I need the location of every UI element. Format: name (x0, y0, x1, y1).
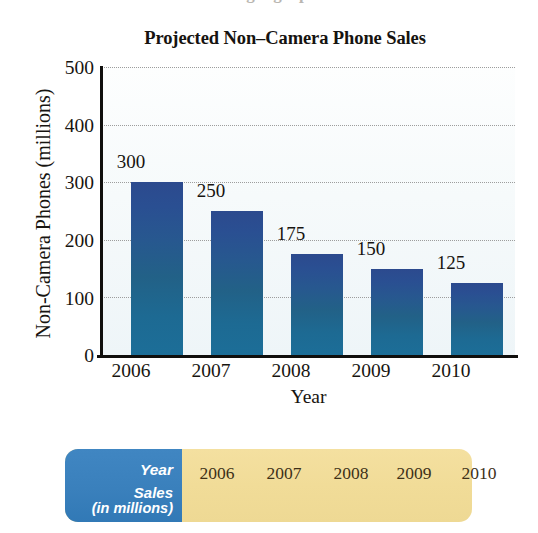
table-cell-sales-2007[interactable] (255, 493, 313, 517)
x-tick-2007: 2007 (166, 360, 256, 382)
bars-layer (102, 67, 515, 355)
table-cell-sales-2008[interactable] (322, 493, 380, 517)
table-cell-sales-2009[interactable] (385, 493, 443, 517)
table-cell-year-2006: 2006 (188, 463, 246, 484)
bar-value-2006: 300 (91, 151, 171, 173)
table-row-label-sales-line1: Sales (134, 484, 173, 501)
table-cell-sales-2006[interactable] (188, 493, 246, 517)
bar-value-2010: 125 (411, 252, 491, 274)
y-tick-400: 400 (32, 115, 94, 137)
bar-value-2008: 175 (251, 223, 331, 245)
y-tick-100: 100 (32, 288, 94, 310)
table-cell-year-2008: 2008 (322, 463, 380, 484)
chart-title: Projected Non–Camera Phone Sales (0, 28, 538, 49)
table-cell-sales-2010[interactable] (450, 493, 508, 517)
y-tick-200: 200 (32, 230, 94, 252)
table-header-column: Year Sales (in millions) (65, 449, 182, 522)
bar-2006[interactable] (131, 182, 183, 355)
table-cell-year-2007: 2007 (255, 463, 313, 484)
table-cell-year-2009: 2009 (385, 463, 443, 484)
table-cell-year-2010: 2010 (450, 463, 508, 484)
table-row-label-sales: Sales (in millions) (65, 485, 173, 516)
y-tick-500: 500 (32, 57, 94, 79)
x-tick-2009: 2009 (326, 360, 416, 382)
table-row-label-year: Year (65, 462, 173, 478)
bar-value-2007: 250 (171, 180, 251, 202)
bar-2009[interactable] (371, 269, 423, 355)
chart-title-text: Projected Non–Camera Phone Sales (144, 28, 426, 48)
x-tick-2006: 2006 (86, 360, 176, 382)
bar-value-2009: 150 (331, 238, 411, 260)
x-tick-2008: 2008 (246, 360, 336, 382)
bar-2010[interactable] (451, 283, 503, 355)
y-tick-0: 0 (32, 345, 94, 367)
table-row-label-sales-line2: (in millions) (65, 501, 173, 516)
bar-chart-figure: Projected Non–Camera Phone Sales Non-Cam… (0, 0, 538, 430)
data-table: Year Sales (in millions) 2006 2007 2008 … (65, 449, 472, 522)
x-tick-2010: 2010 (406, 360, 496, 382)
y-axis-title: Non-Camera Phones (millions) (32, 64, 55, 364)
y-tick-300: 300 (32, 172, 94, 194)
x-axis-title: Year (102, 386, 515, 408)
bar-2008[interactable] (291, 254, 343, 355)
x-axis-line (97, 355, 518, 358)
